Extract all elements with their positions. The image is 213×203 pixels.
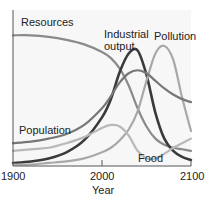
x-axis-label: Year <box>92 184 114 196</box>
label-pollution: Pollution <box>154 30 196 42</box>
x-tick-label-1900: 1900 <box>1 170 25 182</box>
x-tick-label-2000: 2000 <box>90 170 114 182</box>
label-resources: Resources <box>21 16 74 28</box>
label-industrial-output-line2: output <box>104 40 135 52</box>
label-population: Population <box>19 124 71 136</box>
label-industrial-output-line1: Industrial <box>104 28 149 40</box>
x-tick-label-2100: 2100 <box>180 170 204 182</box>
label-food: Food <box>138 152 163 164</box>
